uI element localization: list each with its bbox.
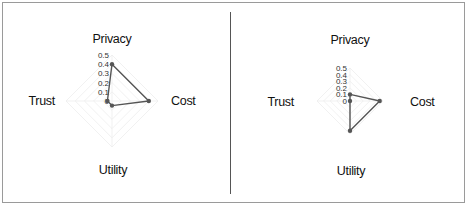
axis-label-privacy: Privacy <box>93 32 133 46</box>
axis-label-cost: Cost <box>171 94 196 108</box>
axis-label-privacy: Privacy <box>331 33 371 47</box>
axis-label-utility: Utility <box>337 164 367 178</box>
axis-label-utility: Utility <box>99 163 129 177</box>
radar-chart-left: 0.50.40.30.20.10 Privacy Cost Utility Tr… <box>28 32 196 177</box>
svg-text:0.5: 0.5 <box>98 51 110 60</box>
axis-label-trust: Trust <box>28 94 55 108</box>
svg-text:0.3: 0.3 <box>98 69 110 78</box>
data-series-polygon <box>107 64 148 105</box>
radar-chart-right: 0.50.40.30.20.10 Privacy Cost Utility Tr… <box>267 33 435 178</box>
svg-text:0.2: 0.2 <box>98 79 110 88</box>
axis-label-trust: Trust <box>267 95 294 109</box>
svg-text:0.4: 0.4 <box>98 60 110 69</box>
axis-label-cost: Cost <box>410 95 435 109</box>
radar-charts: 0.50.40.30.20.10 Privacy Cost Utility Tr… <box>0 0 469 210</box>
svg-text:0: 0 <box>343 97 348 106</box>
